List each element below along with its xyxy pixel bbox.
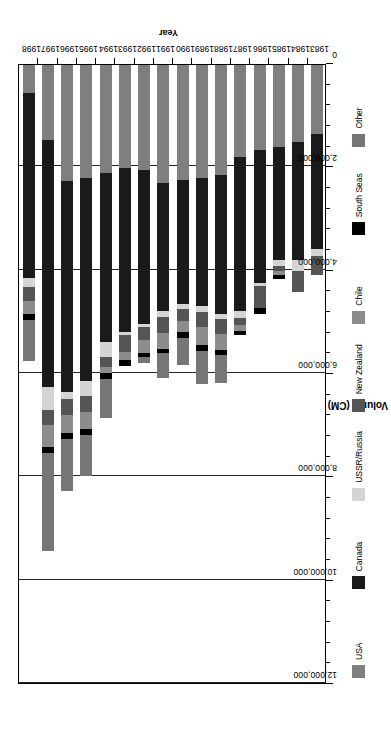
bar-segment[interactable] [138, 324, 150, 327]
bar-segment[interactable] [196, 312, 208, 327]
bar-segment[interactable] [138, 353, 150, 357]
bar-segment[interactable] [23, 278, 35, 287]
bar-segment[interactable] [100, 379, 112, 418]
bar-segment[interactable] [119, 65, 131, 168]
bar-segment[interactable] [119, 168, 131, 332]
bar-segment[interactable] [196, 352, 208, 384]
bar-segment[interactable] [254, 65, 266, 150]
bar-segment[interactable] [157, 317, 169, 333]
bar-segment[interactable] [215, 314, 227, 319]
bar-segment[interactable] [119, 332, 131, 335]
bar-segment[interactable] [100, 65, 112, 173]
bar-segment[interactable] [234, 331, 246, 336]
bar-segment[interactable] [80, 429, 92, 436]
bar-segment[interactable] [61, 181, 73, 392]
bar-segment[interactable] [119, 352, 131, 360]
legend-item-usa[interactable]: USA [352, 643, 365, 678]
legend-item-new-zealand[interactable]: New Zealand [352, 344, 365, 412]
bar-segment[interactable] [215, 355, 227, 383]
bar-segment[interactable] [215, 65, 227, 175]
bar-segment[interactable] [138, 340, 150, 353]
bar-segment[interactable] [311, 134, 323, 249]
stacked-bar[interactable] [311, 65, 323, 275]
bar-segment[interactable] [80, 412, 92, 429]
bar-segment[interactable] [254, 286, 266, 309]
bar-segment[interactable] [177, 181, 189, 304]
bar-segment[interactable] [157, 349, 169, 353]
bar-segment[interactable] [273, 147, 285, 260]
bar-segment[interactable] [42, 447, 54, 454]
bar-segment[interactable] [61, 65, 73, 181]
bar-segment[interactable] [273, 275, 285, 279]
bar-segment[interactable] [311, 249, 323, 256]
bar-segment[interactable] [100, 357, 112, 367]
stacked-bar[interactable] [138, 65, 150, 363]
bar-segment[interactable] [157, 65, 169, 183]
bar-segment[interactable] [292, 271, 304, 291]
bar-segment[interactable] [157, 183, 169, 311]
bar-segment[interactable] [196, 178, 208, 306]
stacked-bar[interactable] [254, 65, 266, 314]
bar-segment[interactable] [234, 157, 246, 311]
bar-segment[interactable] [254, 308, 266, 314]
bar-segment[interactable] [273, 260, 285, 267]
bar-segment[interactable] [61, 433, 73, 440]
bar-segment[interactable] [80, 65, 92, 178]
legend-item-canada[interactable]: Canada [352, 542, 365, 590]
bar-segment[interactable] [23, 301, 35, 314]
stacked-bar[interactable] [100, 65, 112, 418]
bar-segment[interactable] [138, 170, 150, 324]
stacked-bar[interactable] [61, 65, 73, 491]
bar-segment[interactable] [234, 325, 246, 331]
bar-segment[interactable] [23, 320, 35, 361]
bar-segment[interactable] [119, 335, 131, 352]
bar-segment[interactable] [61, 399, 73, 415]
bar-segment[interactable] [23, 287, 35, 301]
bar-segment[interactable] [196, 345, 208, 352]
bar-segment[interactable] [177, 321, 189, 332]
bar-segment[interactable] [42, 425, 54, 447]
bar-segment[interactable] [196, 327, 208, 344]
stacked-bar[interactable] [23, 65, 35, 361]
bar-segment[interactable] [157, 333, 169, 349]
bar-segment[interactable] [273, 271, 285, 275]
bar-segment[interactable] [100, 367, 112, 373]
bar-segment[interactable] [234, 318, 246, 325]
bar-segment[interactable] [273, 266, 285, 271]
bar-segment[interactable] [61, 415, 73, 433]
bar-segment[interactable] [196, 306, 208, 312]
stacked-bar[interactable] [234, 65, 246, 335]
bar-segment[interactable] [100, 173, 112, 343]
stacked-bar[interactable] [80, 65, 92, 476]
bar-segment[interactable] [61, 392, 73, 399]
stacked-bar[interactable] [273, 65, 285, 279]
bar-segment[interactable] [273, 65, 285, 147]
legend-item-ussr-russia[interactable]: USSR/Russia [352, 431, 365, 501]
bar-segment[interactable] [42, 410, 54, 425]
bar-segment[interactable] [23, 93, 35, 278]
bar-segment[interactable] [80, 396, 92, 411]
bar-segment[interactable] [177, 338, 189, 365]
bar-segment[interactable] [42, 453, 54, 551]
legend-item-other[interactable]: Other [352, 107, 365, 146]
bar-segment[interactable] [215, 175, 227, 314]
stacked-bar[interactable] [196, 65, 208, 384]
bar-segment[interactable] [234, 311, 246, 318]
bar-segment[interactable] [23, 314, 35, 320]
bar-segment[interactable] [234, 65, 246, 157]
bar-segment[interactable] [177, 65, 189, 181]
bar-segment[interactable] [254, 283, 266, 286]
bar-segment[interactable] [61, 439, 73, 490]
bar-segment[interactable] [100, 373, 112, 380]
legend-item-chile[interactable]: Chile [352, 286, 365, 323]
stacked-bar[interactable] [42, 65, 54, 551]
bar-segment[interactable] [157, 353, 169, 378]
bar-segment[interactable] [196, 65, 208, 178]
stacked-bar[interactable] [177, 65, 189, 365]
bar-segment[interactable] [292, 65, 304, 142]
stacked-bar[interactable] [157, 65, 169, 378]
stacked-bar[interactable] [215, 65, 227, 383]
bar-segment[interactable] [215, 350, 227, 355]
legend-item-south-seas[interactable]: South Seas [352, 173, 365, 235]
bar-segment[interactable] [311, 65, 323, 134]
